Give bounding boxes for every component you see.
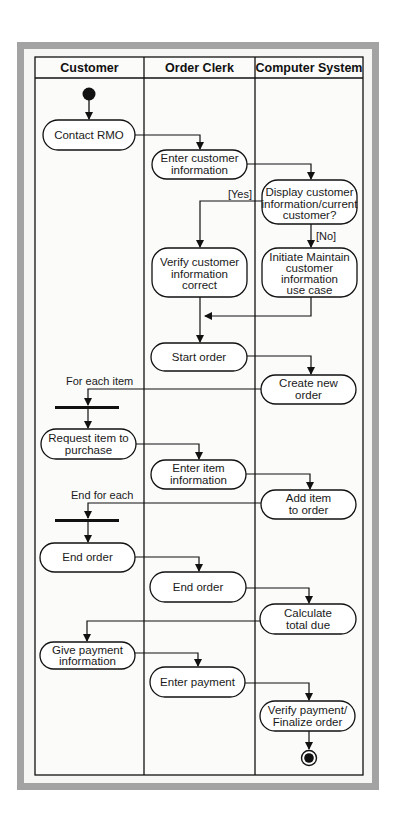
lane-header-order-clerk: Order Clerk (165, 61, 234, 75)
initial-node-icon (83, 88, 96, 101)
activity-verify-customer-information: Verify customer information correct (152, 248, 247, 297)
activity-initiate-maintain-customer: Initiate Maintain customer information u… (262, 248, 357, 297)
activity-label: Start order (172, 351, 226, 363)
activity-label: Add item (286, 492, 331, 504)
activity-label: information (170, 474, 227, 486)
activity-end-order-clerk: End order (150, 572, 246, 602)
final-node-icon (302, 751, 317, 766)
activity-label: Verify payment/ (268, 704, 348, 716)
activity-label: information/current (262, 198, 359, 210)
activity-add-item-to-order: Add item to order (261, 490, 356, 519)
activity-label: Calculate (284, 607, 332, 619)
activity-label: Enter payment (160, 676, 236, 688)
activity-end-order-customer: End order (40, 543, 135, 572)
activity-label: use case (286, 284, 332, 296)
activity-display-customer-information: Display customer information/current cus… (262, 180, 359, 224)
activity-calculate-total-due: Calculate total due (260, 604, 356, 634)
lane-header-customer: Customer (60, 61, 118, 75)
activity-contact-rmo: Contact RMO (43, 120, 135, 150)
activity-label: to order (289, 504, 329, 516)
activity-label: order (295, 389, 322, 401)
activity-enter-payment: Enter payment (150, 667, 245, 697)
activity-label: Request item to (48, 432, 129, 444)
activity-label: End order (62, 551, 113, 563)
activity-request-item: Request item to purchase (41, 429, 136, 459)
sync-bar-fork (55, 406, 119, 409)
activity-enter-customer-information: Enter customer information (152, 150, 247, 179)
annotation-for-each-item: For each item (66, 375, 133, 387)
activity-label: Verify customer (160, 256, 239, 268)
activity-start-order: Start order (151, 343, 247, 371)
activity-label: customer? (283, 209, 337, 221)
activity-diagram: Customer Order Clerk Computer System Con… (0, 0, 396, 829)
annotation-end-for-each: End for each (71, 489, 133, 501)
activity-label: Enter item (172, 462, 224, 474)
activity-give-payment-information: Give payment information (40, 642, 135, 669)
activity-label: purchase (65, 444, 112, 456)
activity-label: Enter customer (161, 152, 239, 164)
guard-no: [No] (316, 230, 336, 242)
activity-label: information (59, 655, 116, 667)
activity-verify-payment-finalize-order: Verify payment/ Finalize order (260, 701, 355, 731)
activity-label: End order (173, 581, 224, 593)
sync-bar-join (55, 519, 119, 522)
guard-yes: [Yes] (228, 188, 252, 200)
activity-create-new-order: Create new order (261, 375, 356, 404)
activity-label: information (171, 164, 228, 176)
activity-label: total due (286, 619, 330, 631)
activity-label: Display customer (265, 186, 353, 198)
activity-label: Contact RMO (54, 129, 124, 141)
activity-label: correct (182, 279, 218, 291)
activity-enter-item-information: Enter item information (151, 460, 246, 489)
activity-label: Finalize order (273, 716, 343, 728)
activity-label: information (171, 268, 228, 280)
activity-label: Give payment (52, 644, 124, 656)
activity-label: Create new (279, 377, 339, 389)
lane-header-computer-system: Computer System (256, 61, 363, 75)
